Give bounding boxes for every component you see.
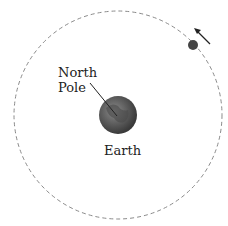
north-pole-label-line1: North <box>58 65 97 80</box>
earth-label: Earth <box>104 143 141 158</box>
orbit-diagram <box>0 0 228 226</box>
moon-icon <box>188 40 198 50</box>
north-pole-label-line2: Pole <box>58 80 97 95</box>
north-pole-label: North Pole <box>58 65 97 95</box>
